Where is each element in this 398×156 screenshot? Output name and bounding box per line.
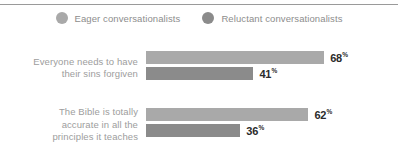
bar-value-label: 36% — [246, 125, 263, 137]
legend-label: Eager conversationalists — [75, 13, 181, 24]
bar-group: The Bible is totally accurate in all the… — [0, 96, 398, 154]
bar-reluctant[interactable] — [146, 124, 240, 137]
bar-row: 68% — [146, 51, 348, 64]
bar-value-label: 68% — [330, 52, 347, 64]
bar-track: 62% 36% — [146, 96, 398, 154]
category-label-line: The Bible is totally — [59, 106, 138, 117]
chart-legend: Eager conversationalists Reluctant conve… — [0, 12, 398, 24]
category-label-line: their sins forgiven — [62, 68, 138, 79]
legend-item-eager[interactable]: Eager conversationalists — [56, 12, 181, 24]
plot-area: Everyone needs to have their sins forgiv… — [0, 40, 398, 156]
bar-row: 41% — [146, 67, 277, 80]
legend-label: Reluctant conversationalists — [221, 13, 342, 24]
category-label: The Bible is totally accurate in all the… — [0, 106, 146, 144]
top-divider — [0, 4, 398, 5]
bar-track: 68% 41% — [146, 46, 398, 90]
bar-value-label: 41% — [259, 68, 276, 80]
grouped-bar-chart: Eager conversationalists Reluctant conve… — [0, 0, 398, 156]
bar-value-label: 62% — [314, 109, 331, 121]
bar-reluctant[interactable] — [146, 67, 253, 80]
category-label-line: accurate in all the — [62, 119, 138, 130]
category-label-line: Everyone needs to have — [33, 56, 138, 67]
bar-eager[interactable] — [146, 108, 308, 121]
circle-marker-icon — [56, 12, 68, 24]
bar-row: 36% — [146, 124, 264, 137]
bar-eager[interactable] — [146, 51, 324, 64]
bar-row: 62% — [146, 108, 332, 121]
bar-group: Everyone needs to have their sins forgiv… — [0, 46, 398, 90]
circle-marker-icon — [202, 12, 214, 24]
category-label: Everyone needs to have their sins forgiv… — [0, 56, 146, 81]
category-label-line: principles it teaches — [52, 131, 138, 142]
legend-item-reluctant[interactable]: Reluctant conversationalists — [202, 12, 342, 24]
